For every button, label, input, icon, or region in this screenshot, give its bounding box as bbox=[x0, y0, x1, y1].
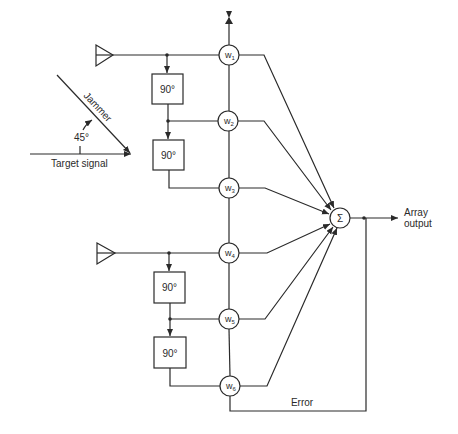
phase-shifter-3-label: 90° bbox=[162, 282, 177, 293]
angle-label: 45° bbox=[74, 132, 89, 143]
weight-w5: w5 bbox=[219, 309, 239, 329]
weight-w2: w2 bbox=[218, 111, 238, 131]
sigma-label: Σ bbox=[337, 213, 343, 224]
adaptive-array-diagram: 90° 90° 90° 90° w1 w2 w3 bbox=[0, 0, 458, 434]
w2-to-sum bbox=[238, 121, 331, 210]
antenna-2-icon bbox=[97, 243, 115, 264]
weight-w3: w3 bbox=[219, 178, 239, 198]
w6-to-sum bbox=[240, 228, 337, 386]
summer-node: Σ bbox=[330, 208, 350, 228]
jammer-arrow bbox=[57, 75, 130, 153]
connector bbox=[170, 368, 220, 386]
antenna-1-icon bbox=[96, 45, 113, 66]
weight-w4: w4 bbox=[219, 243, 239, 263]
angle-arc-arrow bbox=[83, 120, 92, 130]
phase-shifter-4-label: 90° bbox=[162, 348, 177, 359]
target-signal-label: Target signal bbox=[51, 158, 108, 169]
error-feedback-line bbox=[230, 218, 366, 411]
w3-to-sum bbox=[239, 188, 329, 214]
w5-to-sum bbox=[239, 227, 333, 319]
phase-shifter-2-label: 90° bbox=[161, 150, 176, 161]
output-label-line2: output bbox=[404, 218, 432, 229]
output-label-line1: Array bbox=[404, 207, 428, 218]
junction-dot bbox=[362, 216, 366, 220]
phase-shifter-1-label: 90° bbox=[160, 84, 175, 95]
weight-w1: w1 bbox=[219, 45, 239, 65]
weight-w6: w6 bbox=[220, 376, 240, 396]
error-label: Error bbox=[291, 397, 314, 408]
weight-bus bbox=[229, 329, 230, 376]
up-arrow-icon bbox=[225, 17, 233, 24]
w1-to-sum bbox=[239, 55, 334, 208]
connector bbox=[169, 170, 219, 188]
